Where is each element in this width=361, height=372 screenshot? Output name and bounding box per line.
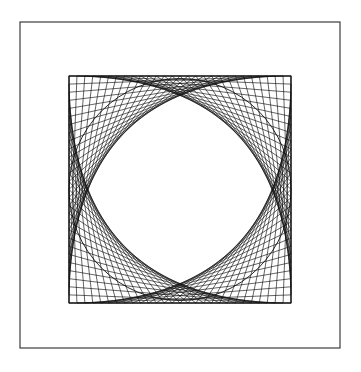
figure-root <box>0 0 361 372</box>
geometric-figure-canvas <box>0 0 361 372</box>
figure-background <box>0 0 361 372</box>
